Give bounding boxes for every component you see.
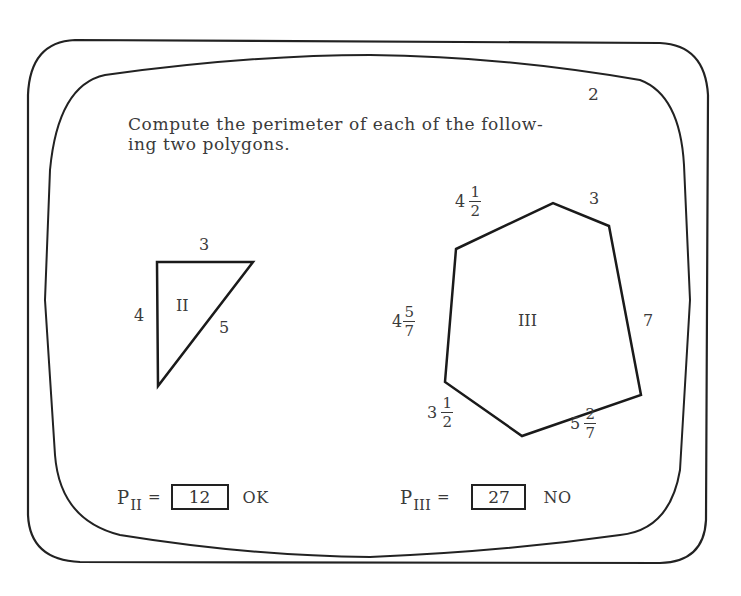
fraction: 2 7 — [584, 406, 596, 441]
triangle-id-label: II — [176, 296, 189, 315]
hexagon-side-bottom-left: 3 1 2 — [427, 395, 453, 430]
page-number: 2 — [588, 84, 599, 104]
feedback-II: OK — [243, 488, 269, 507]
fraction: 1 2 — [469, 184, 481, 219]
hexagon-side-bottom-right: 5 2 7 — [570, 406, 596, 441]
triangle-side-top: 3 — [199, 235, 209, 254]
triangle-side-hypotenuse: 5 — [219, 318, 229, 337]
prompt-line-2: ing two polygons. — [128, 134, 543, 154]
perimeter-label-III: PIII — [400, 487, 431, 508]
answer-input-III[interactable]: 27 — [471, 484, 526, 510]
polygon-III-hexagon — [445, 203, 641, 436]
equals-sign: = — [148, 488, 161, 506]
fraction: 1 2 — [441, 395, 453, 430]
triangle-side-left: 4 — [134, 306, 144, 325]
hexagon-side-right: 7 — [643, 311, 653, 330]
answer-row-II: PII = 12 OK — [117, 484, 269, 510]
answer-input-II[interactable]: 12 — [171, 484, 229, 510]
hexagon-side-upper-left: 4 1 2 — [455, 184, 481, 219]
terminal-frame — [0, 0, 741, 596]
hexagon-id-label: III — [518, 311, 537, 330]
perimeter-label-II: PII — [117, 487, 142, 508]
equals-sign: = — [437, 488, 450, 506]
feedback-III: NO — [543, 488, 571, 507]
polygon-II-triangle — [157, 262, 253, 386]
hexagon-side-upper-right: 3 — [589, 189, 599, 208]
answer-row-III: PIII = 27 NO — [400, 484, 572, 510]
prompt-line-1: Compute the perimeter of each of the fol… — [128, 114, 543, 134]
hexagon-side-left: 4 5 7 — [392, 304, 415, 339]
question-prompt: Compute the perimeter of each of the fol… — [128, 114, 543, 154]
fraction: 5 7 — [403, 304, 415, 339]
